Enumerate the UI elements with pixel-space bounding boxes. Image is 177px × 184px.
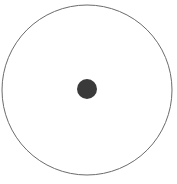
figure-canvas: Circle with center point [0,0,177,184]
circle-diagram [0,0,177,184]
center-point-dot [77,79,97,99]
